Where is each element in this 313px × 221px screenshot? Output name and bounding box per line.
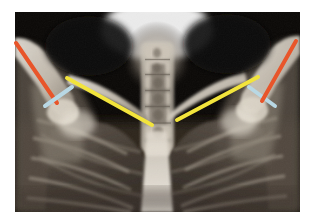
film-grain xyxy=(15,12,300,212)
xray-plate xyxy=(15,12,300,212)
xray-image xyxy=(15,12,300,212)
radiograph-figure xyxy=(0,0,313,221)
